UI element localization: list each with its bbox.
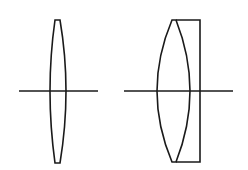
lens-diagram-svg <box>0 0 248 170</box>
doublet-lens-group <box>124 20 233 162</box>
lens-diagram <box>0 0 248 170</box>
biconvex-lens-group <box>19 20 98 163</box>
